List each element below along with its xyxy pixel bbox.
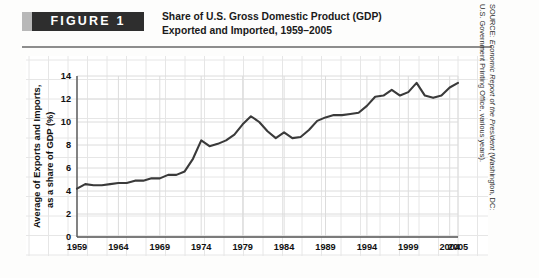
source-prefix: SOURCE: bbox=[488, 4, 497, 40]
y-axis-title-line-2: as a share of GDP (%) bbox=[45, 112, 55, 208]
y-tick-label: 10 bbox=[61, 117, 71, 127]
figure-title: Share of U.S. Gross Domestic Product (GD… bbox=[162, 10, 492, 37]
y-axis-title-line-1: Average of Exports and Imports, bbox=[32, 85, 42, 228]
x-tick-label: 1959 bbox=[67, 242, 87, 252]
figure-header: FIGURE 1 Share of U.S. Gross Domestic Pr… bbox=[22, 10, 492, 48]
figure-title-line-2: Exported and Imported, 1959–2005 bbox=[162, 24, 492, 38]
source-publication-title: Economic Report of the President bbox=[488, 40, 497, 151]
figure-number-badge: FIGURE 1 bbox=[32, 12, 144, 31]
x-tick-label: 1969 bbox=[150, 242, 170, 252]
x-tick-label: 1984 bbox=[274, 242, 295, 252]
x-tick-label: 1964 bbox=[108, 242, 129, 252]
x-tick-label: 1989 bbox=[315, 242, 335, 252]
y-tick-label: 6 bbox=[66, 163, 71, 173]
figure-page: FIGURE 1 Share of U.S. Gross Domestic Pr… bbox=[0, 0, 539, 278]
figure-title-line-1: Share of U.S. Gross Domestic Product (GD… bbox=[162, 10, 492, 24]
y-tick-label: 12 bbox=[61, 94, 71, 104]
source-suffix: (Washington, DC: bbox=[488, 150, 497, 210]
x-tick-label: 1979 bbox=[232, 242, 252, 252]
x-tick-label: 1994 bbox=[357, 242, 378, 252]
y-tick-label: 0 bbox=[66, 232, 71, 242]
y-tick-label: 2 bbox=[66, 209, 71, 219]
x-tick-label: 2005 bbox=[448, 242, 468, 252]
line-chart: 02468101214 1959196419691974197919841989… bbox=[26, 56, 488, 256]
chart-container: 02468101214 1959196419691974197919841989… bbox=[26, 56, 488, 256]
x-tick-label: 1999 bbox=[398, 242, 418, 252]
y-tick-label: 4 bbox=[66, 186, 72, 196]
y-tick-label: 8 bbox=[66, 140, 71, 150]
source-credit: SOURCE: Economic Report of the President… bbox=[487, 4, 497, 254]
figure-badge-backdrop: FIGURE 1 bbox=[22, 12, 144, 31]
y-tick-label: 14 bbox=[61, 71, 72, 81]
x-tick-label: 1974 bbox=[191, 242, 212, 252]
header-divider bbox=[22, 46, 492, 48]
source-line-2: U.S. Government Printing Office, various… bbox=[477, 4, 487, 162]
